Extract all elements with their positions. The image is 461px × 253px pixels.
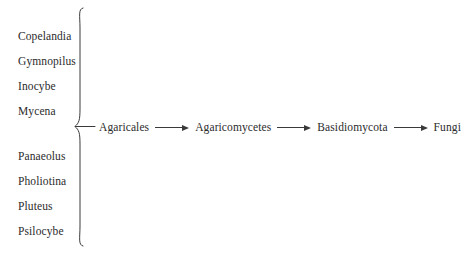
arrow-right-icon xyxy=(394,123,428,132)
arrow-shaft xyxy=(277,127,305,128)
arrow-right-icon xyxy=(155,123,189,132)
arrow-head xyxy=(182,125,189,131)
rank-label-class: Agaricomycetes xyxy=(195,119,271,136)
arrow-right-icon xyxy=(277,123,311,132)
arrow-head xyxy=(421,125,428,131)
arrow-shaft xyxy=(394,127,422,128)
rank-label-order: Agaricales xyxy=(99,119,149,136)
curly-brace-right-icon xyxy=(74,6,102,248)
rank-label-phylum: Basidiomycota xyxy=(317,119,387,136)
arrow-shaft xyxy=(155,127,183,128)
taxonomy-chain: Agaricales Agaricomycetes Basidiomycota … xyxy=(99,119,461,136)
arrow-head xyxy=(304,125,311,131)
rank-label-kingdom: Fungi xyxy=(434,119,461,136)
